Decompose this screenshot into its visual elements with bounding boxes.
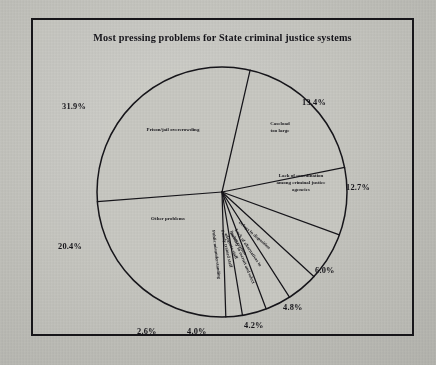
slice-label-coordination: Lack of coordination among criminal just… (255, 173, 347, 193)
pct-label-other: 20.4% (58, 242, 82, 251)
slice-label-other: Other problems (121, 216, 215, 223)
pct-label-alternatives: 4.8% (283, 303, 303, 312)
pie-chart: 31.9% 13.4% 12.7% 6.0% 4.8% 4.2% 4.0% 2.… (33, 20, 416, 338)
slice-label-overcrowding: Prison/jail overcrowding (118, 127, 228, 134)
chart-frame: Most pressing problems for State crimina… (31, 18, 414, 336)
scanned-page: Most pressing problems for State crimina… (0, 0, 436, 365)
pct-label-trained: 4.0% (187, 327, 207, 336)
slice-label-caseload-line1: Caseload (270, 121, 289, 126)
pct-label-caseload: 13.4% (302, 98, 326, 107)
pct-label-delays: 6.0% (315, 266, 335, 275)
pct-label-overcrowding: 31.9% (62, 102, 86, 111)
pie-svg (33, 20, 416, 338)
slice-label-coordination-line3: agencies (292, 187, 310, 192)
slice-label-caseload-line2: too large (271, 128, 290, 133)
pct-label-recruit: 4.2% (244, 321, 264, 330)
slice-label-caseload: Caseload too large (252, 121, 308, 135)
pct-label-coordination: 12.7% (346, 183, 370, 192)
slice-label-coordination-line2: among criminal justice (277, 180, 326, 185)
slice-label-coordination-line1: Lack of coordination (279, 173, 324, 178)
pct-label-misunderstanding: 2.6% (137, 327, 157, 336)
